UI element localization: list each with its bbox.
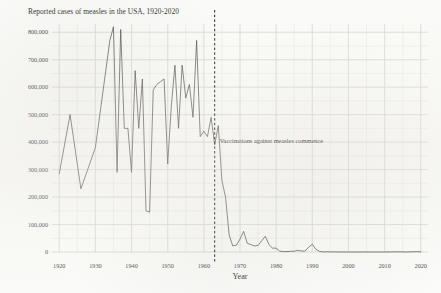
x-tick-label: 2000 <box>328 262 368 269</box>
vaccination-annotation-text: Vaccinations against measles commence <box>220 137 323 144</box>
y-tick-label: 500,000 <box>28 111 48 118</box>
x-tick-label: 1990 <box>292 262 332 269</box>
x-tick-label: 1920 <box>39 262 79 269</box>
y-tick-label: 400,000 <box>28 138 48 145</box>
y-tick-label: 600,000 <box>28 83 48 90</box>
x-tick-label: 1940 <box>112 262 152 269</box>
y-tick-label: 800,000 <box>28 28 48 35</box>
x-tick-label: 1960 <box>184 262 224 269</box>
y-tick-label: 700,000 <box>28 56 48 63</box>
x-tick-label: 1930 <box>75 262 115 269</box>
x-tick-label: 2020 <box>401 262 441 269</box>
plot-area <box>0 0 441 293</box>
x-tick-label: 1970 <box>220 262 260 269</box>
y-tick-label: 0 <box>45 248 48 255</box>
y-tick-label: 200,000 <box>28 193 48 200</box>
chart-title: Reported cases of measles in the USA, 19… <box>28 7 179 16</box>
x-tick-label: 1950 <box>148 262 188 269</box>
y-tick-label: 300,000 <box>28 166 48 173</box>
measles-cases-chart: Reported cases of measles in the USA, 19… <box>0 0 441 293</box>
x-tick-label: 1980 <box>256 262 296 269</box>
y-tick-label: 100,000 <box>28 221 48 228</box>
x-axis-title: Year <box>200 272 280 281</box>
x-tick-label: 2010 <box>365 262 405 269</box>
